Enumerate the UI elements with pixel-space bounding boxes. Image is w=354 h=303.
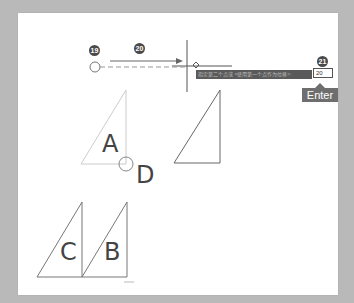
label-b: B — [104, 238, 120, 266]
step-20-badge: 20 — [134, 43, 145, 54]
command-input[interactable]: 20 — [313, 68, 333, 78]
drawing-geometry — [0, 0, 354, 303]
base-point-circle — [90, 62, 100, 72]
snap-marker-icon — [193, 62, 199, 68]
triangle-moved — [174, 90, 220, 163]
label-a: A — [102, 130, 118, 158]
label-c: C — [60, 238, 77, 266]
enter-key-button[interactable]: Enter — [302, 88, 338, 102]
step-21-badge: 21 — [317, 56, 328, 67]
command-prompt: 指定第二个点或 <使用第一个点作为位移>: — [196, 70, 312, 79]
arrow-head-icon — [176, 58, 183, 64]
label-d: D — [136, 161, 154, 189]
step-19-badge: 19 — [89, 45, 100, 56]
